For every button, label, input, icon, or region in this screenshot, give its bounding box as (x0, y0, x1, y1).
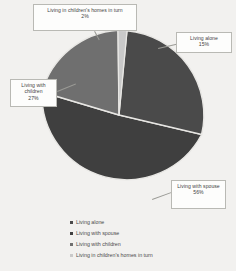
legend-item-living-with-children[interactable]: Living with children (70, 239, 210, 250)
callout-label-text: Living with spouse (177, 183, 220, 189)
callout-living-alone: Living alone 15% (176, 32, 232, 53)
legend-swatch-icon (70, 254, 73, 257)
legend-item-label: Living with children (76, 241, 121, 248)
legend-item-label: Living alone (76, 219, 104, 226)
callout-percent-value: 56% (174, 189, 223, 195)
legend-item-living-in-childrens-homes-in-turn[interactable]: Living in children's homes in turn (70, 250, 210, 261)
legend-item-label: Living with spouse (76, 230, 119, 237)
legend-swatch-icon (70, 221, 73, 224)
callout-label-text: Living with children (21, 82, 45, 94)
callout-percent-value: 2% (36, 13, 134, 19)
callout-living-with-spouse: Living with spouse 56% (171, 180, 226, 209)
legend-item-living-alone[interactable]: Living alone (70, 217, 210, 228)
callout-percent-value: 15% (179, 41, 229, 47)
callout-label-text: Living alone (190, 35, 218, 41)
callout-label-text: Living in children's homes in turn (47, 7, 122, 13)
callout-percent-value: 27% (13, 95, 54, 101)
legend-swatch-icon (70, 232, 73, 235)
legend-item-label: Living in children's homes in turn (76, 252, 153, 259)
pie-chart-figure: Living in children's homes in turn 2% Li… (0, 0, 236, 271)
callout-living-in-childrens-homes-in-turn: Living in children's homes in turn 2% (33, 4, 137, 31)
chart-legend: Living alone Living with spouse Living w… (70, 217, 210, 261)
callout-living-with-children: Living with children 27% (10, 79, 57, 107)
legend-swatch-icon (70, 243, 73, 246)
legend-item-living-with-spouse[interactable]: Living with spouse (70, 228, 210, 239)
